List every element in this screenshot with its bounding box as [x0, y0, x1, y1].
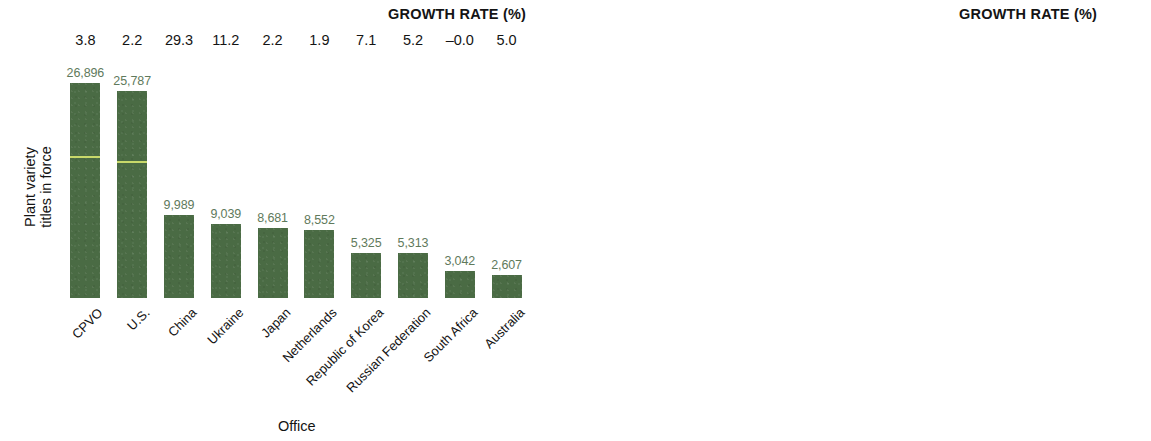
x-axis-tick-label: China	[165, 305, 200, 340]
bar-group[interactable]: 9,039	[202, 58, 249, 298]
bar-value-label: 8,681	[257, 211, 288, 225]
growth-rate-value: 5.2	[390, 32, 437, 48]
bar-value-label: 26,896	[67, 66, 105, 80]
growth-rate-value: 7.1	[343, 32, 390, 48]
bar-value-label: 5,325	[351, 236, 382, 250]
y-axis-label-left-line1: Plant variety	[22, 112, 38, 262]
growth-rate-header-left: GROWTH RATE (%)	[388, 6, 526, 22]
x-axis-tick-label: CPVO	[69, 305, 106, 342]
growth-rate-value: 29.3	[156, 32, 203, 48]
growth-rate-value: 2.2	[109, 32, 156, 48]
bar-group[interactable]: 9,989	[156, 58, 203, 298]
bar[interactable]	[258, 228, 288, 298]
bar-value-label: 9,989	[164, 198, 195, 212]
axis-break-line	[70, 156, 100, 158]
growth-rate-value: –0.0	[436, 32, 483, 48]
bar-group[interactable]: 8,681	[249, 58, 296, 298]
bar[interactable]	[398, 253, 428, 298]
bar-group[interactable]: 5,313	[390, 58, 437, 298]
chart-panel-left: GROWTH RATE (%) 3.82.229.311.22.21.97.15…	[0, 0, 580, 441]
chart-panel-right: GROWTH RATE (%) 5.7–1.84.413.00.54.37.6–…	[580, 0, 1151, 441]
bar-value-label: 8,552	[304, 213, 335, 227]
growth-rate-header-right: GROWTH RATE (%)	[959, 6, 1097, 22]
bar[interactable]	[211, 224, 241, 298]
x-axis-label-left: Office	[278, 418, 316, 434]
bar[interactable]	[492, 275, 522, 298]
bar[interactable]	[117, 91, 147, 298]
bar[interactable]	[304, 230, 334, 298]
x-axis-tick-label: Australia	[481, 305, 527, 351]
bar[interactable]	[445, 271, 475, 298]
bar-value-label: 3,042	[444, 254, 475, 268]
axis-break-line	[117, 161, 147, 163]
bar-series-left: 26,89625,7879,9899,0398,6818,5525,3255,3…	[62, 58, 530, 298]
bar[interactable]	[351, 253, 381, 298]
y-axis-label-left: Plant variety titles in force	[22, 112, 54, 262]
growth-rate-value: 5.0	[483, 32, 530, 48]
bar-group[interactable]: 3,042	[436, 58, 483, 298]
bar-group[interactable]: 8,552	[296, 58, 343, 298]
y-axis-label-left-line2: titles in force	[38, 112, 54, 262]
plant-variety-titles-figure: GROWTH RATE (%) 3.82.229.311.22.21.97.15…	[0, 0, 1151, 441]
x-axis-tick-label: U.S.	[124, 305, 152, 333]
x-axis-tick-label: Ukraine	[204, 305, 246, 347]
bar[interactable]	[70, 83, 100, 298]
bar-value-label: 2,607	[491, 258, 522, 272]
bar[interactable]	[164, 215, 194, 298]
plot-area-left: 26,89625,7879,9899,0398,6818,5525,3255,3…	[62, 58, 530, 298]
x-axis-tick-label: Russian Federation	[343, 305, 433, 395]
growth-rate-value: 1.9	[296, 32, 343, 48]
bar-group[interactable]: 26,896	[62, 58, 109, 298]
bar-group[interactable]: 2,607	[483, 58, 530, 298]
bar-group[interactable]: 5,325	[343, 58, 390, 298]
x-axis-tick-label: Japan	[258, 305, 294, 341]
bar-value-label: 5,313	[398, 236, 429, 250]
bar-value-label: 9,039	[210, 207, 241, 221]
bar-value-label: 25,787	[113, 74, 151, 88]
growth-rate-value: 2.2	[249, 32, 296, 48]
bar-group[interactable]: 25,787	[109, 58, 156, 298]
x-axis-categories-left: CPVOU.S.ChinaUkraineJapanNetherlandsRepu…	[62, 303, 530, 433]
growth-rate-value: 3.8	[62, 32, 109, 48]
growth-rate-value: 11.2	[202, 32, 249, 48]
growth-rate-values-left: 3.82.229.311.22.21.97.15.2–0.05.0	[62, 30, 530, 50]
